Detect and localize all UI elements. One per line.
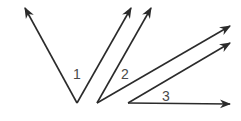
angle-2-label: 2: [121, 66, 129, 82]
angle-3: 3: [128, 43, 230, 104]
angle-1-left-ray: [25, 8, 77, 103]
angle-diagram: 1 2 3: [0, 0, 241, 121]
angle-1-label: 1: [73, 66, 81, 82]
angle-2-upper-ray: [97, 8, 151, 103]
angle-3-label: 3: [162, 88, 170, 104]
angle-3-upper-ray: [128, 43, 230, 103]
angle-1: 1: [25, 8, 131, 103]
angle-3-horizontal-ray: [128, 103, 230, 104]
